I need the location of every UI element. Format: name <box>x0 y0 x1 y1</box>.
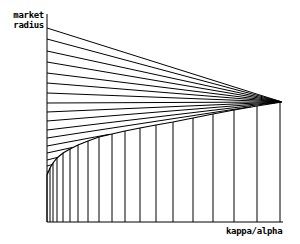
envelope-curve <box>47 102 282 175</box>
chart: market radius kappa/alpha <box>0 0 300 244</box>
y-label-line2: radius <box>6 20 44 30</box>
y-axis-label: market radius <box>6 10 44 30</box>
ray-line <box>47 62 282 102</box>
ray-line <box>47 102 280 112</box>
ray-line <box>47 102 281 103</box>
plot-area <box>0 0 300 244</box>
y-label-line1: market <box>6 10 44 20</box>
ray-line <box>47 134 110 146</box>
ray-line <box>47 107 251 138</box>
ray-line <box>47 102 279 121</box>
x-axis-label: kappa/alpha <box>226 226 282 236</box>
ray-line <box>47 28 282 102</box>
